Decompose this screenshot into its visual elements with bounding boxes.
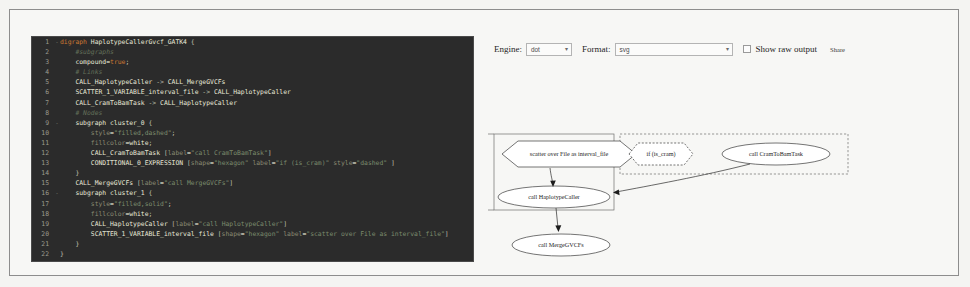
code-token: "if (is_cram)" xyxy=(276,159,330,167)
code-line[interactable]: 7 CALL_CramToBamTask -> CALL_HaplotypeCa… xyxy=(32,98,473,108)
engine-select-value: dot xyxy=(531,46,540,53)
node-cramtobamtask[interactable]: call CramToBamTask xyxy=(722,143,830,165)
code-token: "filled,dashed" xyxy=(114,129,172,137)
code-lines[interactable]: 1-digraph HaplotypeCallerGvcf_GATK4 {2 #… xyxy=(32,37,473,259)
code-token: fillcolor xyxy=(60,210,125,218)
code-token: SCATTER_1_VARIABLE_interval_file xyxy=(60,88,199,96)
code-line[interactable]: 11 fillcolor=white; xyxy=(32,138,473,148)
line-number: 11 xyxy=(32,138,54,148)
line-number: 10 xyxy=(32,128,54,138)
code-line[interactable]: 20 SCATTER_1_VARIABLE_interval_file [sha… xyxy=(32,229,473,239)
code-line[interactable]: 16- subgraph cluster_1 { xyxy=(32,188,473,198)
line-number: 18 xyxy=(32,209,54,219)
show-raw-output-checkbox[interactable] xyxy=(743,45,751,53)
node-mergegvcfs[interactable]: call MergeGVCFs xyxy=(512,234,610,256)
node-conditional-label: if (is_cram) xyxy=(646,150,675,158)
code-token: "dashed" xyxy=(356,159,387,167)
edge-path xyxy=(616,164,750,192)
code-text: } xyxy=(60,168,79,178)
code-text: # Nodes xyxy=(60,108,102,118)
line-number: 6 xyxy=(32,87,54,97)
code-line[interactable]: 5 CALL_HaplotypeCaller -> CALL_MergeGVCF… xyxy=(32,77,473,87)
code-line[interactable]: 10 style="filled,dashed"; xyxy=(32,128,473,138)
code-token: label xyxy=(168,149,187,157)
line-number: 3 xyxy=(32,57,54,67)
node-scatter[interactable]: scatter over File as interval_file xyxy=(502,141,636,167)
code-token: label xyxy=(141,179,160,187)
code-text: subgraph cluster_1 { xyxy=(60,188,152,198)
code-token: # Links xyxy=(60,68,102,76)
code-line[interactable]: 17 style="filled,solid"; xyxy=(32,199,473,209)
code-token: "scatter over File as interval_file" xyxy=(306,230,445,238)
code-line[interactable]: 14 } xyxy=(32,168,473,178)
format-select[interactable]: svg ▾ xyxy=(615,43,733,56)
code-text: # Links xyxy=(60,67,102,77)
line-number: 1 xyxy=(32,37,54,47)
code-text: CONDITIONAL_0_EXPRESSION [shape="hexagon… xyxy=(60,158,395,168)
code-token: CALL_HaplotypeCaller xyxy=(60,220,168,228)
graph-canvas[interactable]: scatter over File as interval_file if (i… xyxy=(488,62,958,262)
code-line[interactable]: 13 CONDITIONAL_0_EXPRESSION [shape="hexa… xyxy=(32,158,473,168)
line-number: 8 xyxy=(32,108,54,118)
code-line[interactable]: 18 fillcolor=white; xyxy=(32,209,473,219)
line-number: 14 xyxy=(32,168,54,178)
code-text: fillcolor=white; xyxy=(60,138,152,148)
code-token: [ xyxy=(214,230,222,238)
code-line[interactable]: 1-digraph HaplotypeCallerGvcf_GATK4 { xyxy=(32,37,473,47)
code-line[interactable]: 2 #subgraphs xyxy=(32,47,473,57)
code-text: subgraph cluster_0 { xyxy=(60,118,152,128)
chevron-down-icon: ▾ xyxy=(726,46,729,52)
code-line[interactable]: 6 SCATTER_1_VARIABLE_interval_file -> CA… xyxy=(32,87,473,97)
share-link[interactable]: Share xyxy=(830,46,845,53)
code-token: CALL_CramToBamTask xyxy=(60,149,160,157)
code-text: fillcolor=white; xyxy=(60,209,152,219)
code-token: white xyxy=(129,139,148,147)
code-token: style xyxy=(60,200,110,208)
code-text: } xyxy=(60,239,79,249)
code-line[interactable]: 19 CALL_HaplotypeCaller [label="call Hap… xyxy=(32,219,473,229)
code-line[interactable]: 8 # Nodes xyxy=(32,108,473,118)
code-token: ] xyxy=(387,159,395,167)
code-token: ; xyxy=(172,129,176,137)
code-line[interactable]: 4 # Links xyxy=(32,67,473,77)
code-line[interactable]: 12 CALL_CramToBamTask [label="call CramT… xyxy=(32,148,473,158)
code-token: digraph xyxy=(60,38,91,46)
code-token: "call HaplotypeCaller" xyxy=(199,220,284,228)
code-text: CALL_MergeGVCFs [label="call MergeGVCFs"… xyxy=(60,178,233,188)
code-token: { xyxy=(145,189,153,197)
code-token: } xyxy=(60,240,79,248)
code-text: SCATTER_1_VARIABLE_interval_file -> CALL… xyxy=(60,87,291,97)
code-token: "filled,solid" xyxy=(114,200,168,208)
code-token: label xyxy=(249,159,272,167)
code-line[interactable]: 3 compound=true; xyxy=(32,57,473,67)
code-text: compound=true; xyxy=(60,57,129,67)
code-line[interactable]: 9- subgraph cluster_0 { xyxy=(32,118,473,128)
code-text: CALL_HaplotypeCaller -> CALL_MergeGVCFs xyxy=(60,77,225,87)
node-haplotypecaller[interactable]: call HaplotypeCaller xyxy=(498,186,610,208)
code-token: shape xyxy=(222,230,241,238)
line-number: 15 xyxy=(32,178,54,188)
code-text: style="filled,dashed"; xyxy=(60,128,175,138)
node-conditional[interactable]: if (is_cram) xyxy=(629,143,693,165)
code-token: { xyxy=(187,38,195,46)
code-line[interactable]: 22} xyxy=(32,249,473,259)
edge-cramtobamtask-to-haplotypecaller xyxy=(613,164,750,195)
code-token: ] xyxy=(268,149,272,157)
code-line[interactable]: 15 CALL_MergeGVCFs [label="call MergeGVC… xyxy=(32,178,473,188)
engine-select[interactable]: dot ▾ xyxy=(526,43,572,56)
code-token: CALL_HaplotypeCaller xyxy=(214,88,291,96)
code-token: ; xyxy=(168,200,172,208)
code-token: -> xyxy=(145,99,160,107)
code-token: subgraph cluster_1 xyxy=(60,189,145,197)
code-token: "hexagon" xyxy=(214,159,249,167)
code-line[interactable]: 21 } xyxy=(32,239,473,249)
show-raw-output-label[interactable]: Show raw output xyxy=(756,44,818,54)
code-token: # Nodes xyxy=(60,109,102,117)
code-token: ; xyxy=(149,210,153,218)
dot-source-editor[interactable]: 1-digraph HaplotypeCallerGvcf_GATK4 {2 #… xyxy=(31,36,474,262)
line-number: 2 xyxy=(32,47,54,57)
line-number: 19 xyxy=(32,219,54,229)
code-token: { xyxy=(145,119,153,127)
code-text: CALL_HaplotypeCaller [label="call Haplot… xyxy=(60,219,287,229)
code-token: compound xyxy=(60,58,106,66)
